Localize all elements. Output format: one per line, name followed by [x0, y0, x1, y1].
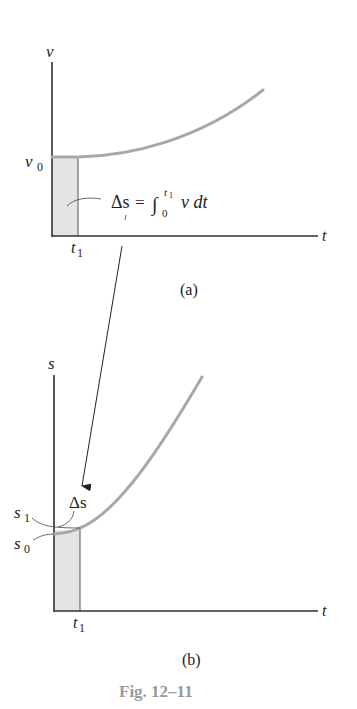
s0-label: s: [14, 534, 21, 553]
annotation-lhs: Δs: [111, 192, 130, 212]
shaded-area-b: [55, 530, 80, 611]
t1-label-a: t: [71, 239, 76, 256]
s1-leader: [32, 518, 80, 528]
t1-subscript-b: 1: [79, 621, 85, 635]
s0-leader: [33, 534, 54, 540]
v-axis-label: v: [46, 42, 54, 61]
integral-upper-limit: t: [164, 186, 168, 198]
integral-sign: ∫: [150, 193, 159, 217]
transfer-arrow: [82, 246, 122, 486]
shaded-area-a: [53, 157, 78, 236]
v0-subscript: 0: [37, 160, 43, 174]
t-axis-label-b: t: [322, 602, 327, 619]
integral-upper-limit-sub: 1: [169, 191, 173, 200]
annotation-tick-a: [125, 215, 126, 220]
t1-label-b: t: [73, 614, 78, 631]
s1-subscript: 1: [24, 511, 30, 525]
figure-canvas: v t v 0 t 1 Δs = ∫ 0 t 1 v dt (a) s t s …: [0, 0, 357, 709]
integrand: v dt: [181, 192, 208, 212]
panel-a: v t v 0 t 1 Δs = ∫ 0 t 1 v dt (a): [25, 42, 327, 299]
v0-label: v: [25, 152, 33, 171]
annotation-equals: =: [135, 193, 145, 212]
delta-s-label: Δs: [69, 493, 87, 512]
s1-label: s: [14, 503, 21, 522]
t1-subscript-a: 1: [77, 246, 83, 260]
delta-s-leader: [58, 511, 74, 527]
s-axis-label: s: [48, 354, 55, 373]
s0-subscript: 0: [24, 542, 30, 556]
velocity-curve: [52, 90, 263, 157]
panel-b-label: (b): [182, 651, 201, 669]
panel-a-label: (a): [180, 281, 198, 299]
t-axis-label-a: t: [322, 227, 327, 244]
figure-caption: Fig. 12–11: [119, 682, 193, 701]
integral-lower-limit: 0: [162, 207, 168, 219]
panel-b: s t s 1 s 0 Δs t 1 (b): [14, 354, 327, 669]
